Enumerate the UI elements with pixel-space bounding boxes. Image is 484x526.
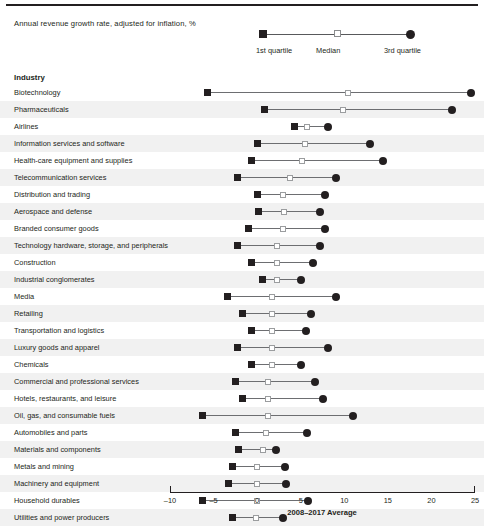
table-row: Industrial conglomerates: [0, 271, 484, 288]
median-marker: [269, 294, 275, 300]
table-row: Household durables: [0, 492, 484, 509]
x-tick-label: 15: [384, 496, 392, 505]
q3-marker: [366, 140, 374, 148]
row-label-industry: Chemicals: [14, 360, 49, 369]
median-marker: [269, 328, 275, 334]
table-row: Airlines: [0, 118, 484, 135]
median-marker: [265, 396, 271, 402]
table-row: Technology hardware, storage, and periph…: [0, 237, 484, 254]
q3-marker: [467, 89, 475, 97]
quartile-range-line: [295, 126, 328, 127]
row-label-industry: Health-care equipment and supplies: [14, 156, 132, 165]
table-row: Retailing: [0, 305, 484, 322]
table-row: Chemicals: [0, 356, 484, 373]
table-row: Machinery and equipment: [0, 475, 484, 492]
q1-marker: [232, 378, 239, 385]
quartile-range-line: [235, 381, 314, 382]
q1-marker: [259, 276, 266, 283]
median-marker: [299, 158, 305, 164]
x-axis-line: [170, 492, 475, 493]
median-marker: [254, 481, 260, 487]
table-row: Telecommunication services: [0, 169, 484, 186]
row-plot-area: [170, 135, 475, 152]
row-plot-area: [170, 288, 475, 305]
q1-marker: [248, 361, 255, 368]
q3-marker: [311, 378, 319, 386]
q1-marker: [235, 446, 242, 453]
median-marker: [274, 277, 280, 283]
row-plot-area: [170, 237, 475, 254]
q3-marker: [279, 514, 287, 522]
q3-marker: [324, 123, 332, 131]
x-tick-label: 10: [340, 496, 348, 505]
table-row: Oil, gas, and consumable fuels: [0, 407, 484, 424]
row-label-industry: Automobiles and parts: [14, 428, 88, 437]
row-label-industry: Distribution and trading: [14, 190, 90, 199]
quartile-range-line: [252, 330, 306, 331]
row-label-industry: Airlines: [14, 122, 38, 131]
median-marker: [269, 345, 275, 351]
q1-marker: [254, 191, 261, 198]
quartile-range-line: [252, 262, 313, 263]
row-plot-area: [170, 339, 475, 356]
q1-marker: [199, 412, 206, 419]
x-axis-left-cap: [170, 486, 171, 493]
row-label-industry: Utilities and power producers: [14, 513, 109, 522]
row-plot-area: [170, 118, 475, 135]
q3-marker: [282, 480, 290, 488]
q3-marker: [302, 327, 310, 335]
q3-marker: [307, 310, 315, 318]
quartile-range-line: [264, 109, 452, 110]
median-marker: [274, 243, 280, 249]
q3-marker: [321, 191, 329, 199]
q3-marker: [332, 174, 340, 182]
legend-q1-marker-icon: [259, 30, 267, 38]
row-label-industry: Branded consumer goods: [14, 224, 99, 233]
q3-marker: [332, 293, 340, 301]
table-row: Pharmaceuticals: [0, 101, 484, 118]
row-plot-area: [170, 186, 475, 203]
q1-marker: [232, 429, 239, 436]
quartile-range-line: [257, 194, 325, 195]
row-plot-area: [170, 220, 475, 237]
top-divider: [6, 4, 478, 6]
quartile-range-line: [239, 449, 276, 450]
table-row: Aerospace and defense: [0, 203, 484, 220]
row-plot-area: [170, 322, 475, 339]
row-label-industry: Hotels, restaurants, and leisure: [14, 394, 116, 403]
quartile-range-line: [242, 398, 323, 399]
median-marker: [253, 515, 259, 521]
table-row: Materials and components: [0, 441, 484, 458]
q3-marker: [319, 395, 327, 403]
q1-marker: [248, 259, 255, 266]
row-label-industry: Transportation and logistics: [14, 326, 104, 335]
row-label-industry: Industrial conglomerates: [14, 275, 95, 284]
q1-marker: [248, 327, 255, 334]
row-plot-area: [170, 101, 475, 118]
table-row: Information services and software: [0, 135, 484, 152]
q3-marker: [281, 463, 289, 471]
q1-marker: [248, 157, 255, 164]
median-marker: [260, 447, 266, 453]
quartile-range-line: [207, 92, 470, 93]
median-marker: [340, 107, 346, 113]
q1-marker: [291, 123, 298, 130]
median-marker: [345, 90, 351, 96]
q3-marker: [316, 242, 324, 250]
row-label-industry: Aerospace and defense: [14, 207, 92, 216]
quartile-range-line: [248, 228, 325, 229]
q3-marker: [272, 446, 280, 454]
table-row: Media: [0, 288, 484, 305]
q1-marker: [255, 208, 262, 215]
row-label-industry: Information services and software: [14, 139, 125, 148]
x-tick-label: –10: [164, 496, 176, 505]
x-tick-label: 20: [427, 496, 435, 505]
row-label-industry: Materials and components: [14, 445, 101, 454]
q1-marker: [245, 225, 252, 232]
q3-marker: [349, 412, 357, 420]
row-plot-area: [170, 407, 475, 424]
table-row: Biotechnology: [0, 84, 484, 101]
median-marker: [254, 464, 260, 470]
legend-median-marker-icon: [334, 30, 341, 37]
